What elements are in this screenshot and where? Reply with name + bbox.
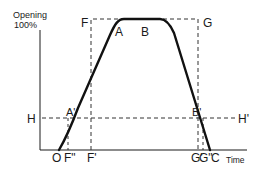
y-axis-label-line2: 100%: [14, 20, 37, 30]
label-H-prime: H': [238, 112, 249, 126]
opening-curve: [59, 19, 210, 150]
label-F-prime: F': [87, 151, 97, 165]
x-axis-label: Time: [226, 155, 245, 165]
y-axis-label-line1: Opening: [13, 10, 47, 20]
label-F: F: [81, 16, 88, 30]
opening-time-diagram: Opening 100% Time F G A B A' B' H H' O F…: [0, 0, 262, 171]
label-H: H: [27, 112, 36, 126]
label-A-prime: A': [66, 106, 75, 118]
label-A: A: [115, 25, 123, 39]
label-F-double-prime: F": [64, 151, 76, 165]
label-G: G: [203, 16, 212, 30]
label-B-prime: B': [192, 106, 201, 118]
label-O: O: [52, 151, 61, 165]
label-C: C: [211, 151, 220, 165]
label-B: B: [141, 25, 149, 39]
